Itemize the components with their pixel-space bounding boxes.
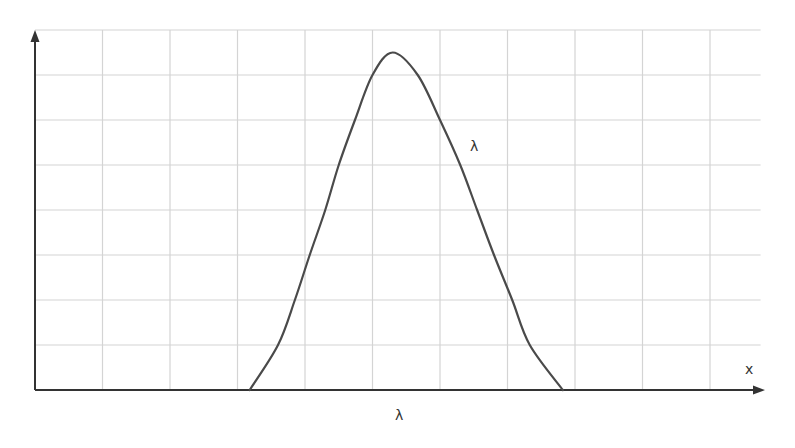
grid-lines bbox=[35, 30, 761, 390]
x-axis-label: x bbox=[745, 362, 753, 376]
x-axis-arrow-icon bbox=[753, 386, 765, 395]
chart-canvas bbox=[0, 0, 795, 448]
y-axis-arrow-icon bbox=[31, 30, 40, 42]
x-axis-marker-lambda: λ bbox=[395, 408, 403, 422]
bell-curve-line bbox=[250, 53, 563, 391]
curve-label-lambda: λ bbox=[470, 139, 478, 153]
axes bbox=[31, 30, 766, 395]
